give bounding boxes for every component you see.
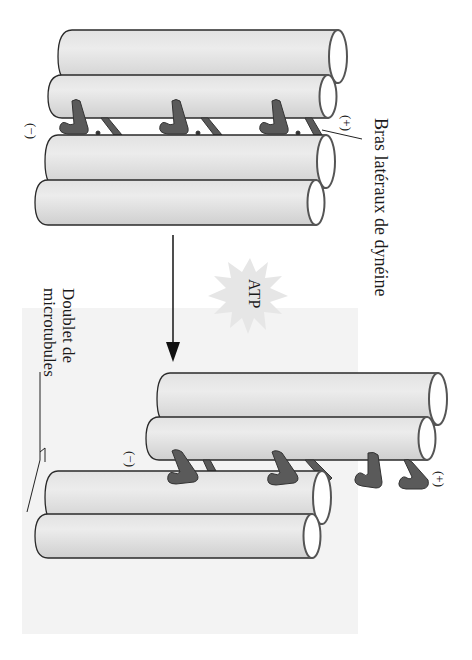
dynein-strut-icon	[101, 118, 122, 135]
dynein-hook-icon	[399, 459, 429, 489]
dynein-strut-icon	[201, 118, 222, 135]
top-panel	[35, 30, 362, 225]
minus-end-marker: (−)	[22, 122, 40, 140]
atp-label: ATP	[246, 279, 262, 309]
microtubule-doublet-label: Doublet de microtubules	[40, 288, 78, 377]
dynein-arms-label: Bras latéraux de dynéine	[372, 118, 390, 296]
microtubule-tube	[35, 180, 325, 225]
microtubule-tube	[35, 514, 321, 558]
minus-end-marker: (−)	[121, 450, 139, 468]
microtubule-tube	[48, 75, 337, 118]
doublet-label-line1: Doublet de	[59, 288, 78, 377]
doublet-label-line2: microtubules	[40, 288, 59, 377]
microtubule-tube	[146, 417, 436, 460]
plus-end-marker: (+)	[430, 470, 448, 488]
plus-end-marker: (+)	[337, 114, 355, 132]
dynein-strut-icon	[305, 118, 322, 135]
